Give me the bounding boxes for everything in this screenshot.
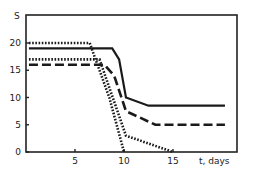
series-solid: [29, 48, 225, 105]
x-tick-label: 10: [118, 156, 130, 166]
x-tick-label: 15: [167, 156, 178, 166]
axis-ticks: 0510152051015: [10, 38, 179, 166]
y-tick-label: 15: [10, 65, 21, 75]
x-axis-title: t, days: [199, 156, 230, 166]
plot-frame: [26, 15, 237, 152]
series-group: [29, 43, 225, 152]
y-tick-label: 0: [15, 147, 21, 157]
y-tick-label: 5: [15, 120, 21, 130]
y-axis-title: S: [14, 11, 20, 21]
chart: 0510152051015 S t, days: [0, 0, 256, 178]
series-dashed: [29, 65, 225, 125]
y-tick-label: 10: [10, 93, 22, 103]
y-tick-label: 20: [10, 38, 22, 48]
x-tick-label: 5: [72, 156, 78, 166]
